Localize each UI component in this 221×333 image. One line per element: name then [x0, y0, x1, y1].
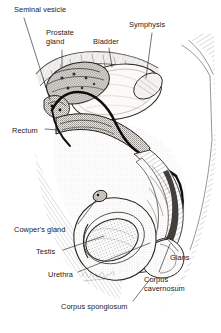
label-urethra: Urethra	[48, 271, 73, 280]
label-corpus-spongiosum: Corpus spongiosum	[61, 303, 128, 312]
label-corpus-cavernosum: Corpus cavernosum	[144, 276, 185, 293]
label-rectum: Rectum	[12, 127, 38, 136]
label-seminal-vesicle: Seminal vesicle	[14, 6, 66, 15]
label-cowpers-gland: Cowper's gland	[14, 226, 65, 235]
anatomical-figure: Seminal vesicle Prostate gland Bladder S…	[0, 0, 221, 333]
label-prostate-gland: Prostate gland	[46, 29, 74, 46]
label-glans: Glans	[170, 254, 190, 263]
label-bladder: Bladder	[93, 38, 119, 47]
torso-outline	[0, 0, 221, 333]
label-testis: Testis	[36, 248, 55, 257]
label-symphysis: Symphysis	[129, 21, 165, 30]
testis-structure	[74, 198, 156, 280]
anatomy-illustration	[0, 0, 221, 333]
